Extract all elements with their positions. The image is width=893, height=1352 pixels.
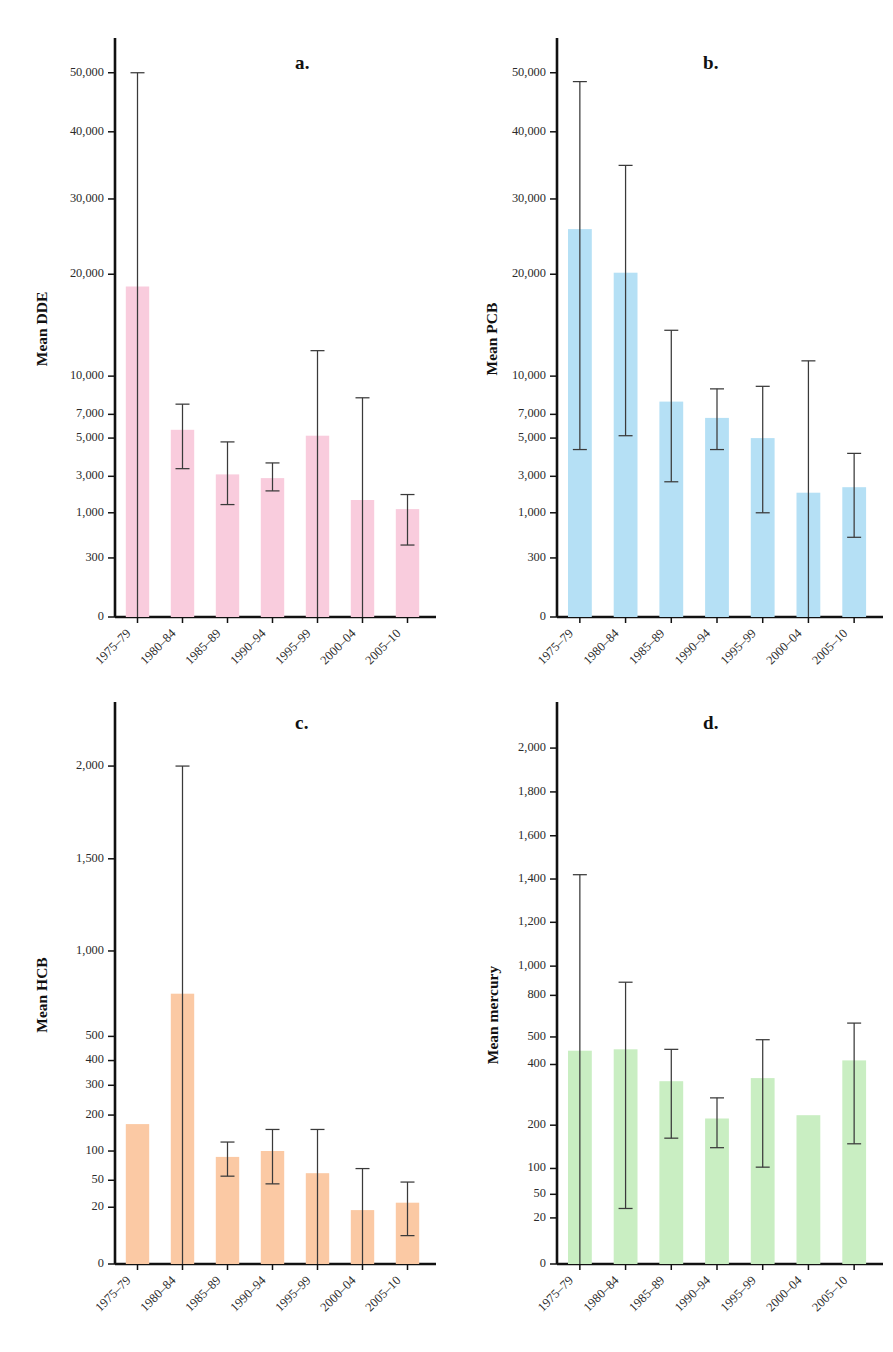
- y-tick-label: 40,000: [70, 124, 104, 138]
- x-tick-label: 1975–79: [535, 626, 576, 667]
- x-tick-label: 1985–89: [626, 626, 667, 667]
- y-tick-label: 1,000: [518, 505, 546, 519]
- x-tick-label: 1980–84: [581, 1273, 623, 1315]
- bar: [261, 478, 284, 617]
- x-tick-label: 1995–99: [273, 626, 314, 667]
- y-tick-label: 2,000: [76, 758, 104, 772]
- x-tick-label: 1980–84: [138, 626, 180, 668]
- y-tick-label: 40,000: [512, 124, 546, 138]
- y-tick-label: 200: [527, 1117, 546, 1131]
- x-tick-label: 1990–94: [228, 626, 270, 668]
- y-tick-label: 1,500: [76, 851, 104, 865]
- y-tick-label: 10,000: [512, 368, 546, 382]
- y-tick-label: 200: [85, 1107, 104, 1121]
- x-tick-label: 2000–04: [763, 626, 805, 668]
- x-tick-label: 1990–94: [228, 1273, 270, 1315]
- y-tick-label: 10,000: [70, 368, 104, 382]
- y-tick-label: 3,000: [518, 468, 546, 482]
- panel-d-plot: 020501002004005008001,0001,2001,4001,600…: [447, 676, 893, 1352]
- y-tick-label: 50,000: [70, 65, 104, 79]
- y-tick-label: 5,000: [518, 430, 546, 444]
- panel-c: c. Mean HCB 020501002003004005001,0001,5…: [0, 676, 446, 1352]
- y-tick-label: 3,000: [76, 468, 104, 482]
- y-tick-label: 1,800: [518, 784, 546, 798]
- x-tick-label: 1990–94: [672, 626, 714, 668]
- x-tick-label: 1985–89: [183, 626, 224, 667]
- x-tick-label: 2005–10: [363, 626, 404, 667]
- x-tick-label: 2005–10: [809, 626, 850, 667]
- y-tick-label: 1,200: [518, 914, 546, 928]
- y-tick-label: 0: [98, 609, 104, 623]
- x-tick-label: 1990–94: [672, 1273, 714, 1315]
- y-tick-label: 300: [85, 1077, 104, 1091]
- y-tick-label: 1,600: [518, 828, 546, 842]
- y-tick-label: 20,000: [512, 266, 546, 280]
- panel-a-plot: 03001,0003,0005,0007,00010,00020,00030,0…: [0, 0, 446, 676]
- y-tick-label: 500: [85, 1028, 104, 1042]
- x-tick-label: 2005–10: [363, 1273, 404, 1314]
- y-tick-label: 30,000: [70, 191, 104, 205]
- panel-a: a. Mean DDE 03001,0003,0005,0007,00010,0…: [0, 0, 446, 676]
- y-tick-label: 50: [534, 1186, 546, 1200]
- panel-d: d. Mean mercury 020501002004005008001,00…: [447, 676, 893, 1352]
- panel-b: b. Mean PCB 03001,0003,0005,0007,00010,0…: [447, 0, 893, 676]
- y-tick-label: 1,000: [76, 505, 104, 519]
- y-tick-label: 20,000: [70, 266, 104, 280]
- y-tick-label: 2,000: [518, 740, 546, 754]
- y-tick-label: 0: [540, 609, 546, 623]
- figure-container: a. Mean DDE 03001,0003,0005,0007,00010,0…: [0, 0, 893, 1352]
- x-tick-label: 2000–04: [318, 1273, 360, 1315]
- y-tick-label: 100: [85, 1143, 104, 1157]
- y-tick-label: 500: [527, 1029, 546, 1043]
- y-tick-label: 30,000: [512, 191, 546, 205]
- panel-b-plot: 03001,0003,0005,0007,00010,00020,00030,0…: [447, 0, 893, 676]
- x-tick-label: 1980–84: [138, 1273, 180, 1315]
- y-tick-label: 50: [92, 1172, 104, 1186]
- x-tick-label: 1975–79: [535, 1273, 576, 1314]
- y-tick-label: 300: [85, 550, 104, 564]
- y-tick-label: 20: [92, 1199, 104, 1213]
- y-tick-label: 20: [534, 1210, 546, 1224]
- panel-c-plot: 020501002003004005001,0001,5002,0001975–…: [0, 676, 446, 1352]
- x-tick-label: 2000–04: [318, 626, 360, 668]
- y-tick-label: 0: [540, 1256, 546, 1270]
- y-tick-label: 7,000: [518, 406, 546, 420]
- x-tick-label: 1985–89: [626, 1273, 667, 1314]
- x-tick-label: 1975–79: [93, 1273, 134, 1314]
- bar: [797, 1115, 821, 1264]
- y-tick-label: 300: [527, 550, 546, 564]
- x-tick-label: 1975–79: [93, 626, 134, 667]
- y-tick-label: 100: [527, 1160, 546, 1174]
- x-tick-label: 1985–89: [183, 1273, 224, 1314]
- y-tick-label: 1,000: [76, 943, 104, 957]
- y-tick-label: 50,000: [512, 65, 546, 79]
- y-tick-label: 7,000: [76, 406, 104, 420]
- x-tick-label: 2000–04: [763, 1273, 805, 1315]
- bar: [126, 1124, 149, 1264]
- y-tick-label: 400: [85, 1052, 104, 1066]
- x-tick-label: 1995–99: [718, 626, 759, 667]
- y-tick-label: 400: [527, 1056, 546, 1070]
- x-tick-label: 1995–99: [273, 1273, 314, 1314]
- y-tick-label: 5,000: [76, 430, 104, 444]
- x-tick-label: 2005–10: [809, 1273, 850, 1314]
- y-tick-label: 1,000: [518, 958, 546, 972]
- y-tick-label: 800: [527, 987, 546, 1001]
- y-tick-label: 0: [98, 1256, 104, 1270]
- y-tick-label: 1,400: [518, 871, 546, 885]
- x-tick-label: 1995–99: [718, 1273, 759, 1314]
- x-tick-label: 1980–84: [581, 626, 623, 668]
